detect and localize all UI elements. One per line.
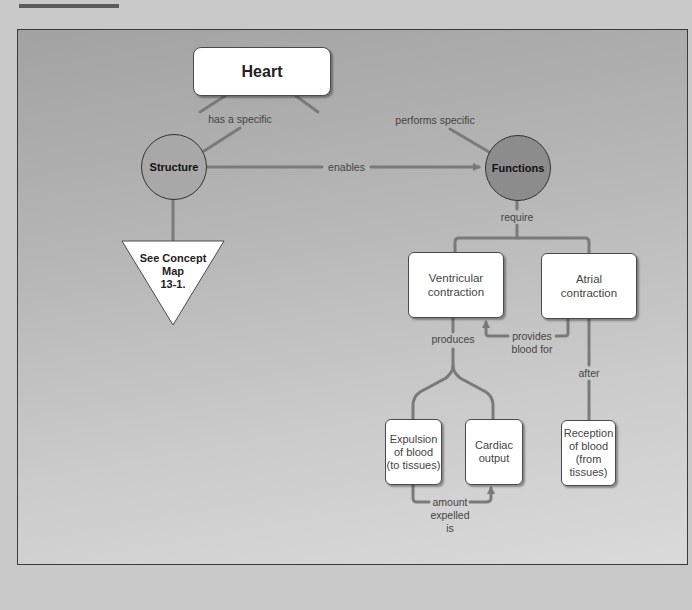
link-label-produces: produces [423,333,483,346]
link-label-require: require [497,211,537,224]
label-line: blood for [506,343,558,356]
link-label-provides-blood-for: provides blood for [506,330,558,356]
label-line: provides [506,330,558,343]
link-label-amount-expelled-is: amount expelled is [428,496,472,535]
node-line: Cardiac [475,439,513,452]
node-line: (from [576,453,602,466]
label-line: expelled [428,509,472,522]
link-label-has-a-specific: has a specific [200,113,280,126]
functions-node: Functions [485,135,551,201]
link-label-enables: enables [322,161,371,174]
heart-node: Heart [193,47,331,96]
node-line: of blood [394,446,433,459]
node-line: output [479,452,510,465]
node-line: Ventricular [429,271,483,285]
node-line: Reception [564,427,614,440]
link-label-performs-specific: performs specific [390,114,480,127]
node-line: tissues) [570,466,608,479]
reception-of-blood-node: Reception of blood (from tissues) [561,420,616,486]
structure-node: Structure [141,134,207,200]
node-line: Atrial [576,272,602,286]
heart-label: Heart [242,65,283,79]
see-concept-map-line: See Concept [130,252,216,265]
see-concept-map-line: 13-1. [130,278,216,291]
see-concept-map-node: See Concept Map 13-1. [130,252,216,291]
cardiac-output-node: Cardiac output [465,419,523,485]
node-line: (to tissues) [387,459,441,472]
node-line: of blood [569,440,608,453]
functions-label: Functions [492,162,545,174]
link-label-after: after [574,367,604,380]
expulsion-of-blood-node: Expulsion of blood (to tissues) [385,419,442,485]
node-line: contraction [428,285,484,299]
label-line: amount [428,496,472,509]
node-line: Expulsion [390,433,438,446]
structure-label: Structure [150,161,199,173]
label-line: is [428,522,472,535]
see-concept-map-line: Map [130,265,216,278]
node-line: contraction [561,286,617,300]
ventricular-contraction-node: Ventricular contraction [408,252,504,318]
atrial-contraction-node: Atrial contraction [541,253,637,319]
